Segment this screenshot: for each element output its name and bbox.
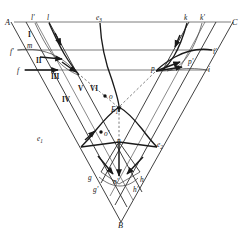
boundary-curve-l [35,23,79,75]
label-o: o [109,92,113,101]
dot-o [103,94,106,97]
label-e1: e1 [37,134,43,144]
dot-o-prime [99,130,102,133]
label-k: k [184,13,188,22]
label-f-prime: f' [10,47,14,56]
label-k-prime: k' [200,13,205,22]
label-n: n [117,136,121,145]
label-i: i [208,65,210,74]
label-e3: e3 [96,13,102,23]
label-i-prime: i' [213,47,217,56]
region-label-I: I [28,31,31,39]
vertex-label-C: C [232,18,238,27]
vertex-label-A: A [4,18,11,27]
label-l: l [47,13,49,22]
label-o-prime: o' [104,129,110,138]
label-g-prime: g' [93,185,99,194]
region-label-III: III [51,73,60,81]
figure-root: A C B l' l e3 k k' f' m f e1 i' [0,0,244,234]
label-e2: e2 [157,140,163,150]
label-p: p [150,64,155,73]
geometric-diagram-svg: A C B l' l e3 k k' f' m f e1 i' [0,0,244,234]
region-label-V: V [78,85,84,93]
vertex-label-B: B [118,221,123,230]
label-h: h [140,175,144,184]
label-f: f [17,66,20,75]
label-n-prime: n' [113,177,119,186]
label-l-prime: l' [31,13,35,22]
label-h-prime: h' [133,185,139,194]
region-label-IV: IV [62,96,71,104]
region-label-VI: VI [90,85,98,93]
region-label-II: II [36,57,42,65]
label-p-prime: p' [187,57,194,66]
label-m: m [27,41,33,50]
label-g: g [88,173,92,182]
